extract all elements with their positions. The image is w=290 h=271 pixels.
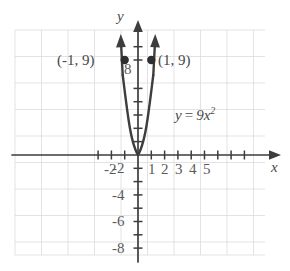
equation-operator: = — [185, 107, 193, 123]
x-tick-label-1: 1 — [148, 162, 156, 177]
point-marker-right — [147, 56, 155, 64]
graph-canvas — [0, 0, 290, 271]
x-tick-label-5: 5 — [203, 162, 211, 177]
equation-coefficient: 9 — [196, 107, 204, 123]
y-tick-label-neg4: -4 — [112, 188, 125, 203]
equation-label: y=9x2 — [175, 106, 215, 123]
graph-figure: y x -2 1 2 3 4 5 8 -2 -4 -6 -8 (-1, 9) (… — [0, 0, 290, 271]
equation-exponent: 2 — [210, 105, 215, 116]
y-tick-label-neg2: -2 — [112, 161, 125, 176]
left-branch-arrowhead — [116, 34, 126, 48]
x-axis-label: x — [271, 160, 278, 175]
y-axis-label: y — [117, 9, 124, 24]
x-tick-label-4: 4 — [189, 162, 197, 177]
y-axis-arrowhead — [133, 20, 143, 32]
x-tick-label-2: 2 — [161, 162, 169, 177]
point-label-left: (-1, 9) — [57, 53, 95, 68]
equation-lhs: y — [175, 107, 182, 123]
point-label-right: (1, 9) — [158, 53, 191, 68]
y-tick-label-8: 8 — [124, 62, 132, 77]
x-tick-label-3: 3 — [175, 162, 183, 177]
y-tick-label-neg8: -8 — [112, 241, 125, 256]
right-branch-arrowhead — [150, 34, 160, 48]
y-tick-label-neg6: -6 — [112, 214, 125, 229]
